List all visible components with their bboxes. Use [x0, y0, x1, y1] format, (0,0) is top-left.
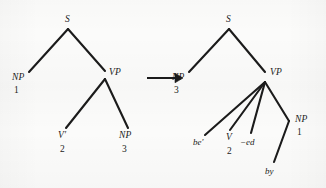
right-leaf-by: by	[265, 167, 274, 176]
left-node-v-bar: V′	[58, 131, 66, 141]
edge-vp-to-be	[205, 82, 265, 135]
figure-root: S NP 1 VP V′ 2 NP 3 S NP 3 VP be′ V 2 −e…	[0, 0, 326, 188]
left-node-np-subject: NP	[12, 73, 25, 83]
right-node-np-subject: NP	[172, 73, 185, 83]
left-tree-edges	[29, 29, 128, 128]
edge-s-to-vp	[68, 29, 105, 71]
edge-vp-to-np3	[105, 79, 128, 128]
left-index-np-object: 3	[122, 145, 127, 155]
edge-vp-to-ed	[251, 82, 265, 133]
edge-vp-to-np1	[265, 82, 289, 121]
left-node-vp: VP	[109, 68, 121, 78]
right-node-np-oblique: NP	[295, 115, 308, 125]
edge-s-to-np3	[189, 29, 229, 72]
edge-s-to-np1	[29, 29, 68, 72]
right-index-np-oblique: 1	[297, 128, 302, 138]
right-leaf-be: be′	[193, 138, 203, 147]
edge-np1-to-by	[274, 121, 289, 162]
left-index-v-bar: 2	[60, 145, 65, 155]
left-node-np-object: NP	[119, 131, 132, 141]
right-index-np-subject: 3	[174, 86, 179, 96]
right-node-vp: VP	[270, 68, 282, 78]
edge-vp-to-vbar	[66, 79, 105, 128]
right-index-v: 2	[227, 147, 232, 157]
left-node-s: S	[65, 15, 70, 25]
edge-s-to-vp	[229, 29, 265, 72]
left-index-np-subject: 1	[14, 86, 19, 96]
right-leaf-ed: −ed	[240, 138, 255, 147]
right-node-s: S	[226, 15, 231, 25]
right-node-v: V	[226, 133, 232, 143]
edge-vp-to-v	[230, 82, 265, 130]
tree-canvas	[0, 0, 326, 188]
right-tree-edges	[189, 29, 289, 162]
